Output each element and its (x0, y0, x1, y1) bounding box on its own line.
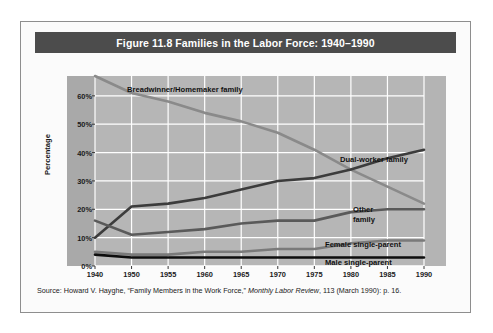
figure-title-bar: Figure 11.8 Families in the Labor Force:… (35, 32, 456, 53)
chart-area: Percentage 0%10%20%30%40%50%60% 19401950… (35, 62, 456, 278)
series-label-other-family: Other family (353, 205, 375, 224)
series-label-breadwinner-homemaker-family: Breadwinner/Homemaker family (127, 85, 243, 95)
source-prefix: Source: Howard V. Hayghe, “Family Member… (37, 286, 248, 295)
source-publication: Monthly Labor Review (248, 286, 319, 295)
figure-card: Figure 11.8 Families in the Labor Force:… (20, 21, 471, 313)
source-suffix: , 113 (March 1990): p. 16. (319, 286, 401, 295)
series-label-female-single-parent: Female single-parent (325, 240, 401, 250)
figure-title: Figure 11.8 Families in the Labor Force:… (116, 37, 374, 49)
series-label-male-single-parent: Male single-parent (325, 258, 392, 268)
series-label-dual-worker-family: Dual-worker family (340, 155, 408, 165)
source-note: Source: Howard V. Hayghe, “Family Member… (37, 285, 457, 296)
